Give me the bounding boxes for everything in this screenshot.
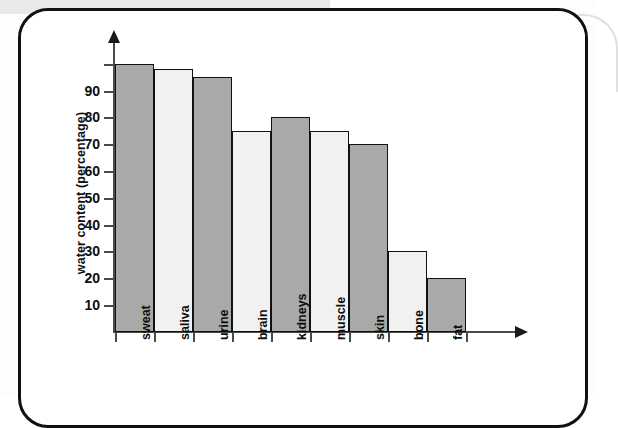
- x-label-saliva: saliva: [178, 305, 192, 340]
- x-tick-5: [310, 332, 312, 342]
- y-tick-50: [104, 198, 114, 200]
- x-axis-arrow-icon: [515, 326, 528, 338]
- y-tick-label-60-wrap: 60: [56, 164, 100, 178]
- x-tick-9: [466, 332, 468, 342]
- y-tick-label-50: 50: [60, 191, 100, 205]
- y-tick-20: [104, 278, 114, 280]
- x-tick-4: [271, 332, 273, 342]
- x-label-brain: brain: [256, 309, 270, 340]
- y-tick-label-30: 30: [60, 244, 100, 258]
- bar-urine: [193, 77, 232, 332]
- x-label-bone: bone: [412, 310, 426, 340]
- x-label-fat: fat: [451, 325, 465, 340]
- x-tick-7: [388, 332, 390, 342]
- y-tick-label-10: 10: [60, 298, 100, 312]
- x-label-urine: urine: [217, 309, 231, 340]
- bar-saliva: [154, 69, 193, 332]
- x-tick-3: [232, 332, 234, 342]
- bar-skin: [349, 144, 388, 332]
- y-tick-label-90: 90: [60, 84, 100, 98]
- y-axis-arrow-icon: [108, 30, 120, 43]
- y-tick-label-70: 70: [60, 137, 100, 151]
- x-tick-6: [349, 332, 351, 342]
- y-tick-10: [104, 305, 114, 307]
- y-tick-label-60: 60: [60, 164, 100, 178]
- y-tick-100: [104, 64, 114, 66]
- x-tick-8: [427, 332, 429, 342]
- y-tick-60: [104, 171, 114, 173]
- bar-brain: [232, 131, 271, 332]
- x-label-muscle: muscle: [334, 297, 348, 340]
- y-tick-label-20-wrap: 20: [56, 271, 100, 285]
- x-label-sweat: sweat: [139, 305, 153, 340]
- y-tick-label-10-wrap: 10: [56, 298, 100, 312]
- x-tick-0: [115, 332, 117, 342]
- y-tick-label-80: 80: [60, 110, 100, 124]
- y-tick-80: [104, 117, 114, 119]
- y-tick-30: [104, 251, 114, 253]
- x-tick-1: [154, 332, 156, 342]
- y-tick-label-90-wrap: 90: [56, 84, 100, 98]
- y-tick-70: [104, 144, 114, 146]
- y-tick-40: [104, 225, 114, 227]
- y-tick-label-30-wrap: 30: [56, 244, 100, 258]
- y-tick-90: [104, 91, 114, 93]
- x-tick-2: [193, 332, 195, 342]
- bar-sweat: [115, 64, 154, 332]
- y-tick-label-70-wrap: 70: [56, 137, 100, 151]
- x-label-kidneys: kidneys: [295, 293, 309, 340]
- y-tick-label-40: 40: [60, 218, 100, 232]
- y-tick-label-50-wrap: 50: [56, 191, 100, 205]
- y-tick-label-40-wrap: 40: [56, 218, 100, 232]
- y-tick-label-80-wrap: 80: [56, 110, 100, 124]
- x-label-skin: skin: [373, 315, 387, 340]
- y-tick-label-20: 20: [60, 271, 100, 285]
